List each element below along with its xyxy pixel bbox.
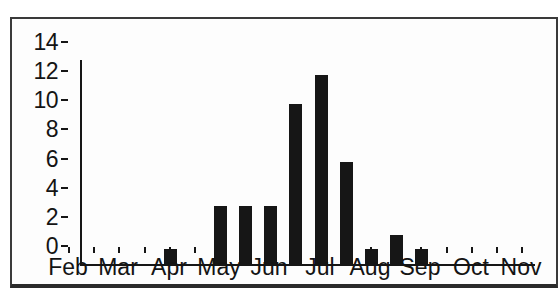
x-axis-tick: [521, 247, 523, 253]
x-axis-tick: [496, 247, 498, 253]
x-axis-tick: [118, 247, 120, 253]
x-axis-tick: [320, 247, 322, 253]
y-axis-label-12: 12: [16, 59, 58, 83]
x-axis-tick: [471, 247, 473, 253]
y-axis-tick: [61, 70, 68, 72]
plot-area: [80, 60, 535, 266]
x-axis-tick: [420, 247, 422, 253]
x-axis-tick: [169, 247, 171, 253]
y-axis-tick: [61, 99, 68, 101]
y-axis-tick: [61, 187, 68, 189]
x-axis-tick: [194, 247, 196, 253]
y-axis-tick: [61, 41, 68, 43]
x-axis-tick: [93, 247, 95, 253]
chart-border-frame: FebMarAprMayJunJulAugSepOctNov 024681012…: [10, 17, 558, 288]
y-axis-tick: [61, 216, 68, 218]
y-axis-label-4: 4: [16, 176, 58, 200]
y-axis-label-2: 2: [16, 205, 58, 229]
bar-jun-2nd-half: [315, 75, 328, 264]
bar-jun-1st-half: [289, 104, 302, 264]
x-axis-tick: [144, 247, 146, 253]
x-axis-tick: [345, 247, 347, 253]
x-axis-tick: [395, 247, 397, 253]
x-axis-tick: [219, 247, 221, 253]
y-axis-tick: [61, 158, 68, 160]
x-axis-tick: [244, 247, 246, 253]
y-axis-label-0: 0: [16, 234, 58, 258]
y-axis-tick: [61, 245, 68, 247]
y-axis-tick: [61, 128, 68, 130]
y-axis-label-6: 6: [16, 147, 58, 171]
y-axis-label-10: 10: [16, 88, 58, 112]
x-axis-tick: [295, 247, 297, 253]
x-axis-tick: [269, 247, 271, 253]
x-axis-tick: [446, 247, 448, 253]
x-axis-tick: [68, 247, 70, 253]
y-axis-label-14: 14: [16, 30, 58, 54]
chart-screenshot: FebMarAprMayJunJulAugSepOctNov 024681012…: [0, 0, 559, 291]
x-axis-tick: [370, 247, 372, 253]
x-axis-label-nov: Nov: [490, 254, 552, 280]
y-axis-label-8: 8: [16, 117, 58, 141]
